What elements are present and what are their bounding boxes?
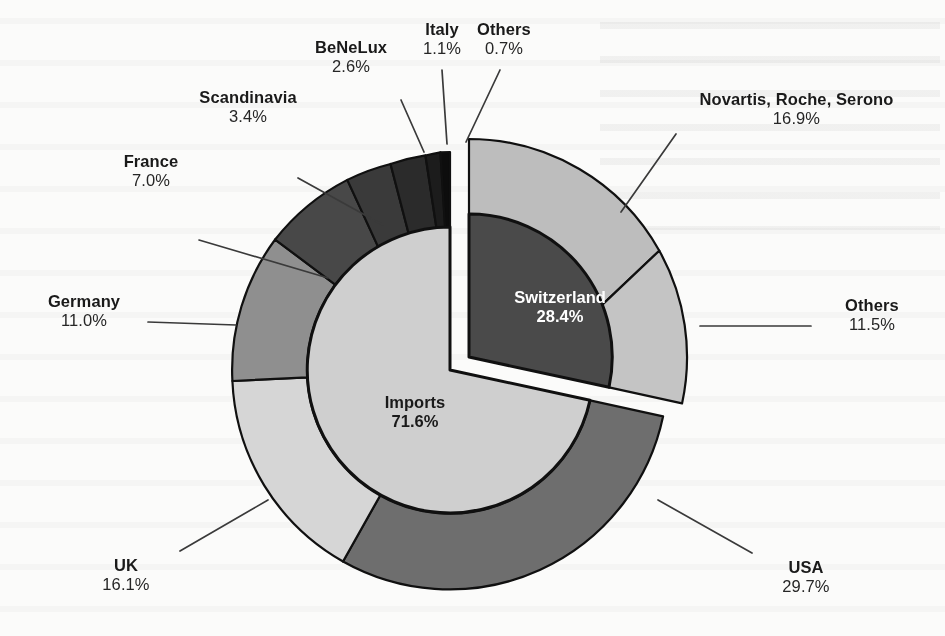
callout-others-right: Others 11.5% [824,296,920,334]
callout-germany: Germany 11.0% [22,292,146,330]
exploded-switzerland-group [469,139,687,403]
chart-page: Scandinavia 3.4% BeNeLux 2.6% Italy 1.1%… [0,0,945,636]
callout-usa: USA 29.7% [758,558,854,596]
inner-label-switzerland-name: Switzerland [490,288,630,307]
inner-label-imports-value: 71.6% [360,412,470,431]
inner-label-switzerland-value: 28.4% [490,307,630,326]
callout-france-name: France [99,152,203,171]
inner-label-switzerland: Switzerland 28.4% [490,288,630,326]
leader-line-others-top [466,70,500,142]
inner-label-imports-name: Imports [360,393,470,412]
callout-novartis-roche-serono: Novartis, Roche, Serono 16.9% [659,90,934,128]
callout-uk-name: UK [80,556,172,575]
leader-line-benelux [401,100,424,152]
callout-germany-value: 11.0% [22,311,146,330]
callout-scandinavia-value: 3.4% [168,107,328,126]
leader-line-germany [148,322,236,325]
callout-benelux: BeNeLux 2.6% [291,38,411,76]
callout-benelux-name: BeNeLux [291,38,411,57]
inner-label-imports: Imports 71.6% [360,393,470,431]
callout-others-top-name: Others [460,20,548,39]
leader-line-usa [658,500,752,553]
callout-france: France 7.0% [99,152,203,190]
leader-line-novartis [621,134,676,212]
callout-others-right-name: Others [824,296,920,315]
callout-novartis-name: Novartis, Roche, Serono [659,90,934,109]
callout-usa-name: USA [758,558,854,577]
callout-germany-name: Germany [22,292,146,311]
callout-others-right-value: 11.5% [824,315,920,334]
callout-uk-value: 16.1% [80,575,172,594]
callout-others-top: Others 0.7% [460,20,548,58]
callout-benelux-value: 2.6% [291,57,411,76]
callout-scandinavia: Scandinavia 3.4% [168,88,328,126]
callout-france-value: 7.0% [99,171,203,190]
callout-novartis-value: 16.9% [659,109,934,128]
leader-line-uk [180,500,268,551]
callout-scandinavia-name: Scandinavia [168,88,328,107]
callout-uk: UK 16.1% [80,556,172,594]
leader-line-italy [442,70,447,144]
callout-usa-value: 29.7% [758,577,854,596]
callout-others-top-value: 0.7% [460,39,548,58]
